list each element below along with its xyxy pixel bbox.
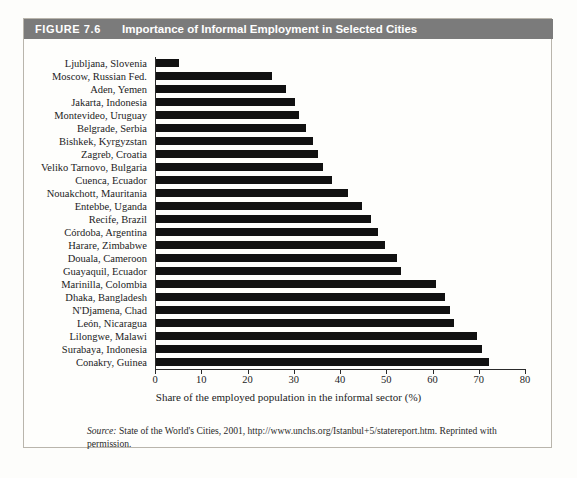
bar-row — [155, 96, 525, 109]
bar — [156, 163, 323, 171]
x-tick-label: 0 — [152, 374, 157, 385]
x-tick-label: 80 — [520, 374, 531, 385]
bar-row — [155, 109, 525, 122]
category-label: Dhaka, Bangladesh — [24, 291, 152, 304]
bar — [156, 85, 286, 93]
source-text: State of the World's Cities, 2001, http:… — [87, 425, 497, 449]
category-label: Douala, Cameroon — [24, 252, 152, 265]
bar — [156, 345, 482, 353]
category-label: Aden, Yemen — [24, 83, 152, 96]
x-tick-label: 40 — [335, 374, 346, 385]
bar — [156, 150, 318, 158]
figure-container: FIGURE 7.6 Importance of Informal Employ… — [23, 18, 552, 448]
chart-area: Ljubljana, SloveniaMoscow, Russian Fed.A… — [24, 39, 553, 419]
category-axis-labels: Ljubljana, SloveniaMoscow, Russian Fed.A… — [24, 57, 152, 369]
bar — [156, 124, 306, 132]
bar-row — [155, 291, 525, 304]
x-tick-label: 30 — [289, 374, 300, 385]
category-label: Córdoba, Argentina — [24, 226, 152, 239]
bar — [156, 98, 295, 106]
bar-row — [155, 135, 525, 148]
bar-row — [155, 174, 525, 187]
bar-row — [155, 148, 525, 161]
bar — [156, 189, 348, 197]
category-label: Nouakchott, Mauritania — [24, 187, 152, 200]
category-label: Harare, Zimbabwe — [24, 239, 152, 252]
bar-row — [155, 343, 525, 356]
bar-row — [155, 83, 525, 96]
x-tick-label: 20 — [242, 374, 253, 385]
source-note: Source: State of the World's Cities, 200… — [87, 424, 527, 450]
bar — [156, 241, 385, 249]
category-label: Conakry, Guinea — [24, 356, 152, 369]
bar — [156, 228, 378, 236]
category-label: Montevideo, Uruguay — [24, 109, 152, 122]
bar — [156, 280, 436, 288]
source-prefix: Source: — [87, 425, 116, 436]
category-label: Marinilla, Colombia — [24, 278, 152, 291]
bar — [156, 137, 313, 145]
bar-row — [155, 122, 525, 135]
bar-row — [155, 213, 525, 226]
bar-row — [155, 161, 525, 174]
x-tick-label: 10 — [196, 374, 207, 385]
category-label: Entebbe, Uganda — [24, 200, 152, 213]
bar-row — [155, 239, 525, 252]
bar-row — [155, 70, 525, 83]
bar — [156, 72, 272, 80]
category-label: Veliko Tarnovo, Bulgaria — [24, 161, 152, 174]
category-label: Lilongwe, Malawi — [24, 330, 152, 343]
category-label: Recife, Brazil — [24, 213, 152, 226]
x-tick-label: 50 — [381, 374, 392, 385]
bar — [156, 215, 371, 223]
category-label: Cuenca, Ecuador — [24, 174, 152, 187]
plot-region — [155, 57, 525, 369]
bar — [156, 111, 299, 119]
bar — [156, 176, 332, 184]
bar — [156, 59, 179, 67]
bar — [156, 319, 454, 327]
bar-row — [155, 356, 525, 369]
x-tick-label: 70 — [474, 374, 485, 385]
category-label: Ljubljana, Slovenia — [24, 57, 152, 70]
x-axis-tick-labels: 01020304050607080 — [155, 374, 526, 388]
category-label: Jakarta, Indonesia — [24, 96, 152, 109]
figure-number: FIGURE 7.6 — [24, 23, 122, 35]
bar-row — [155, 265, 525, 278]
bar-row — [155, 187, 525, 200]
bar-row — [155, 200, 525, 213]
bar-row — [155, 278, 525, 291]
figure-header-bar: FIGURE 7.6 Importance of Informal Employ… — [24, 19, 553, 39]
bar — [156, 306, 450, 314]
bar-row — [155, 304, 525, 317]
bar-row — [155, 252, 525, 265]
figure-title: Importance of Informal Employment in Sel… — [122, 23, 417, 35]
category-label: Guayaquil, Ecuador — [24, 265, 152, 278]
category-label: Moscow, Russian Fed. — [24, 70, 152, 83]
category-label: Zagreb, Croatia — [24, 148, 152, 161]
bar — [156, 267, 401, 275]
category-label: Surabaya, Indonesia — [24, 343, 152, 356]
x-axis-title: Share of the employed population in the … — [24, 391, 553, 403]
bar-row — [155, 317, 525, 330]
bar — [156, 293, 445, 301]
bar — [156, 202, 362, 210]
x-tick-label: 60 — [427, 374, 438, 385]
bar — [156, 358, 489, 366]
category-label: Belgrade, Serbia — [24, 122, 152, 135]
bar-series — [155, 57, 525, 369]
bar — [156, 254, 397, 262]
bar-row — [155, 57, 525, 70]
bar — [156, 332, 477, 340]
figure-page: FIGURE 7.6 Importance of Informal Employ… — [0, 0, 577, 478]
bar-row — [155, 226, 525, 239]
category-label: Bishkek, Kyrgyzstan — [24, 135, 152, 148]
category-label: N'Djamena, Chad — [24, 304, 152, 317]
category-label: León, Nicaragua — [24, 317, 152, 330]
bar-row — [155, 330, 525, 343]
